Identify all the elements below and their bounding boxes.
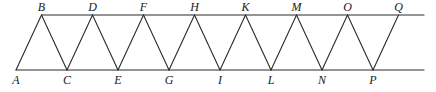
point-label-Q: Q <box>394 0 403 14</box>
segment-BC <box>42 15 68 70</box>
point-label-L: L <box>267 73 275 87</box>
segment-DE <box>93 15 119 70</box>
segment-AB <box>16 15 42 70</box>
point-label-K: K <box>240 0 250 14</box>
segment-EF <box>118 15 144 70</box>
lines-layer <box>16 15 424 70</box>
segment-NO <box>322 15 348 70</box>
point-label-M: M <box>291 0 303 14</box>
point-label-F: F <box>139 0 148 14</box>
segment-HI <box>195 15 221 70</box>
segment-PQ <box>373 15 399 70</box>
point-label-E: E <box>113 73 122 87</box>
point-label-C: C <box>63 73 72 87</box>
segment-IK <box>220 15 246 70</box>
point-label-P: P <box>368 73 377 87</box>
point-label-I: I <box>217 73 223 87</box>
segment-OP <box>348 15 374 70</box>
point-label-A: A <box>11 73 20 87</box>
segment-MN <box>297 15 323 70</box>
segment-FG <box>144 15 170 70</box>
segment-KL <box>246 15 272 70</box>
point-label-D: D <box>87 0 97 14</box>
zigzag-diagram: ABCDEFGHIKLMNOPQ <box>0 0 436 92</box>
point-label-B: B <box>38 0 46 14</box>
segment-LM <box>271 15 297 70</box>
point-label-G: G <box>165 73 174 87</box>
segment-GH <box>169 15 195 70</box>
point-label-N: N <box>317 73 327 87</box>
point-label-H: H <box>189 0 200 14</box>
segment-CD <box>67 15 93 70</box>
point-label-O: O <box>343 0 352 14</box>
